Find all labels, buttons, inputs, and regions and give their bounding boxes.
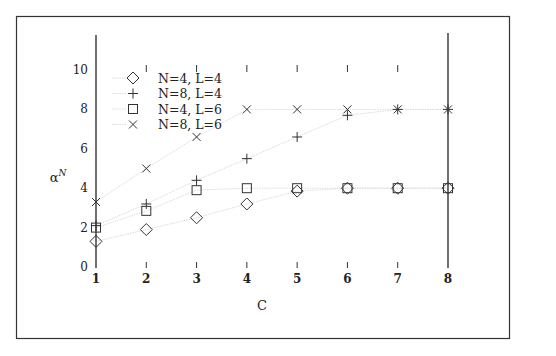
x-tick-label: 6 — [343, 272, 351, 286]
y-tick-label: 8 — [80, 102, 88, 116]
figure-frame — [17, 17, 510, 339]
x-axis-label: C — [257, 298, 267, 313]
chart: 0246810 12345678 C αN N=4, L=4N=8, L=4N=… — [0, 0, 556, 356]
x-tick-label: 2 — [142, 272, 150, 286]
y-tick-label: 2 — [80, 221, 88, 235]
x-tick-label: 7 — [394, 272, 402, 286]
x-tick-label: 4 — [243, 272, 251, 286]
legend-label: N=8, L=4 — [158, 86, 222, 101]
y-tick-label: 6 — [80, 142, 88, 156]
y-tick-label: 0 — [80, 260, 88, 274]
y-tick-label: 10 — [73, 63, 88, 77]
y-tick-label: 4 — [80, 181, 88, 195]
legend-label: N=8, L=6 — [158, 117, 222, 132]
x-tick-label: 5 — [293, 272, 301, 286]
x-tick-label: 3 — [192, 272, 200, 286]
x-tick-label: 8 — [444, 272, 452, 286]
legend-label: N=4, L=4 — [158, 71, 222, 86]
x-tick-label: 1 — [92, 272, 100, 286]
legend-label: N=4, L=6 — [158, 102, 222, 117]
